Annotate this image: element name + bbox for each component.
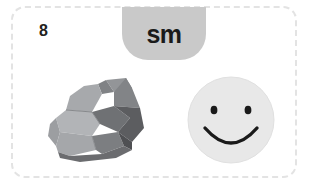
worksheet-screen: 8 sm xyxy=(0,0,310,186)
rock-icon xyxy=(40,66,160,176)
syllable-tab[interactable]: sm xyxy=(122,7,206,60)
syllable-tab-label: sm xyxy=(146,22,181,47)
smiley-left-eye xyxy=(211,106,218,115)
answer-choices xyxy=(24,66,310,176)
smiley-right-eye xyxy=(245,106,252,115)
smiley-face-icon xyxy=(179,66,299,176)
question-card: 8 sm xyxy=(11,6,297,178)
item-number: 8 xyxy=(39,23,48,39)
choice-smiley[interactable] xyxy=(179,66,299,176)
choice-rock[interactable] xyxy=(40,66,160,176)
